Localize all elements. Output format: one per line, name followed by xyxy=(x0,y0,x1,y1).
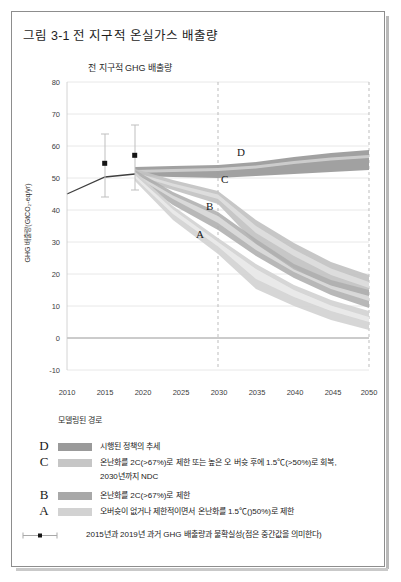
legend-label-C: 온난화를 2C(>67%)로 제한 또는 높은 오 버슛 후에 1.5℃(>50… xyxy=(100,457,337,468)
legend-item-A[interactable]: A 오버슛이 없거나 제한적이면서 온난화를 1.5℃()50%)로 제한 xyxy=(36,505,386,521)
historical-emissions-line xyxy=(67,174,135,194)
legend-label-C-line2: 2030년까지 NDC xyxy=(100,470,158,481)
legend-swatch-D xyxy=(58,443,92,451)
historical-point-2015 xyxy=(102,161,107,166)
legend-letter-B: B xyxy=(36,487,52,503)
legend-swatch-B xyxy=(58,492,92,500)
band-label-C: C xyxy=(221,173,228,185)
legend-item-C[interactable]: C 온난화를 2C(>67%)로 제한 또는 높은 오 버슛 후에 1.5℃(>… xyxy=(36,456,386,472)
legend-label-D: 시행된 정책의 추세 xyxy=(100,441,160,452)
band-label-A: A xyxy=(196,228,204,240)
band-label-D: D xyxy=(237,146,245,158)
screenshot-page: 그림 3-1 전 지구적 온실가스 배출량 전 지구적 GHG 배출량 GHG … xyxy=(0,0,401,582)
historical-point-2019 xyxy=(132,153,137,158)
legend-item-D[interactable]: D 시행된 정책의 추세 xyxy=(36,440,386,456)
legend-swatch-C xyxy=(58,459,92,467)
legend-letter-A: A xyxy=(36,503,52,519)
legend-letter-D: D xyxy=(36,438,52,454)
legend-item-B[interactable]: B 온난화를 2C(>67%)로 제한 xyxy=(36,489,386,505)
legend-swatch-A xyxy=(58,508,92,516)
legend-letter-C: C xyxy=(36,454,52,470)
legend-label-B: 온난화를 2C(>67%)로 제한 xyxy=(100,490,190,501)
historical-legend-label: 2015년과 2019년 과거 GHG 배출량과 불확실성(점은 중간값을 의미… xyxy=(86,528,322,539)
historical-point-marker xyxy=(22,531,58,540)
band-label-B: B xyxy=(206,200,213,212)
band-D xyxy=(135,150,369,178)
legend-label-A: 오버슛이 없거나 제한적이면서 온난화를 1.5℃()50%)로 제한 xyxy=(100,506,294,517)
legend-heading: 모델링된 경로 xyxy=(58,414,102,425)
